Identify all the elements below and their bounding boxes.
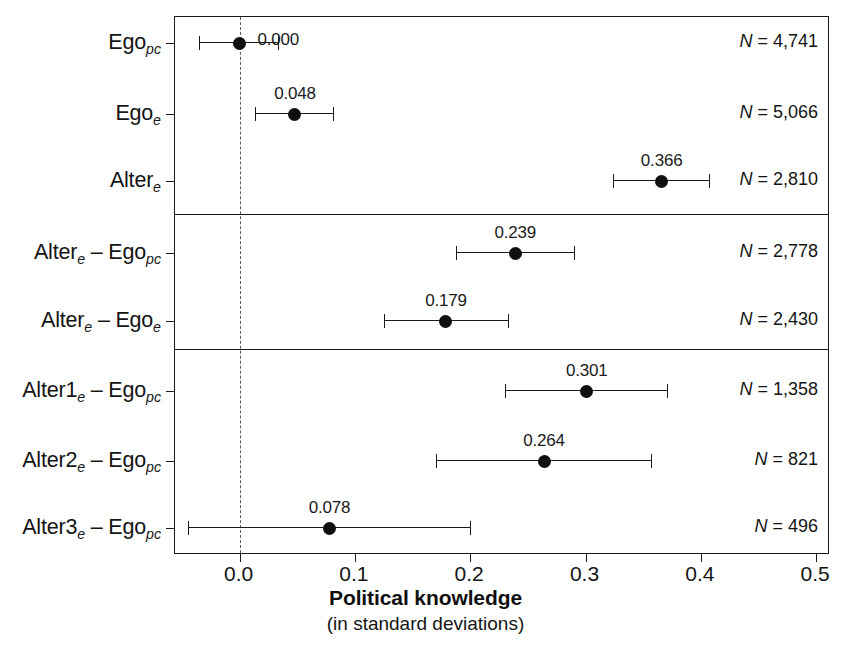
estimate-point [323,522,336,535]
y-axis-tick [166,181,175,182]
y-axis-label-alter1-e-minus-ego-pc: Alter1e – Egopc [22,378,161,403]
estimate-value-label: 0.000 [258,30,300,50]
y-axis-tick [166,321,175,322]
estimate-point [580,385,593,398]
x-axis-title: Political knowledge [0,586,851,610]
confidence-interval-cap-lower [384,314,385,328]
x-axis-tick [586,553,587,562]
confidence-interval-cap-lower [613,174,614,188]
x-axis-tick [816,553,817,562]
sample-size-label: N = 5,066 [739,102,818,123]
sample-size-symbol: N [754,449,767,469]
panel-divider-1 [175,214,828,215]
estimate-value-label: 0.239 [494,223,536,243]
panel-divider-2 [175,349,828,350]
sample-size-label: N = 496 [754,516,818,537]
estimate-value-label: 0.301 [566,361,608,381]
y-axis-tick [166,253,175,254]
y-axis-label-alter-e-minus-ego-e: Altere – Egoe [41,308,161,333]
confidence-interval-cap-lower [436,454,437,468]
estimate-value-label: 0.366 [641,151,683,171]
y-axis-label-alter-e: Altere [110,168,161,193]
sample-size-symbol: N [754,516,767,536]
estimate-point [288,108,301,121]
x-axis-tick-label: 0.2 [455,562,484,586]
sample-size-label: N = 4,741 [739,31,818,52]
y-axis-tick [166,391,175,392]
x-axis-tick [701,553,702,562]
y-axis-label-alter3-e-minus-ego-pc: Alter3e – Egopc [22,515,161,540]
confidence-interval-cap-upper [709,174,710,188]
sample-size-label: N = 1,358 [739,379,818,400]
estimate-point [233,37,246,50]
x-axis-tick [470,553,471,562]
x-axis-subtitle: (in standard deviations) [0,613,851,635]
confidence-interval-cap-upper [574,246,575,260]
sample-size-symbol: N [739,31,752,51]
sample-size-symbol: N [739,241,752,261]
estimate-point [538,455,551,468]
sample-size-symbol: N [739,169,752,189]
confidence-interval-cap-upper [667,384,668,398]
confidence-interval-cap-lower [505,384,506,398]
estimate-value-label: 0.048 [274,84,316,104]
confidence-interval-cap-lower [188,521,189,535]
confidence-interval-cap-upper [333,107,334,121]
forest-plot-figure: 0.000N = 4,7410.048N = 5,0660.366N = 2,8… [0,0,851,655]
y-axis-label-alter2-e-minus-ego-pc: Alter2e – Egopc [22,448,161,473]
y-axis-label-alter-e-minus-ego-pc: Altere – Egopc [34,240,161,265]
sample-size-symbol: N [739,102,752,122]
x-axis-tick-label: 0.3 [570,562,599,586]
sample-size-label: N = 2,430 [739,309,818,330]
y-axis-tick [166,528,175,529]
estimate-point [439,315,452,328]
y-axis-tick [166,43,175,44]
confidence-interval-cap-lower [456,246,457,260]
y-axis-label-ego-pc: Egopc [108,30,161,55]
sample-size-label: N = 821 [754,449,818,470]
x-axis-tick [355,553,356,562]
y-axis-tick [166,461,175,462]
estimate-value-label: 0.078 [309,498,351,518]
x-axis-tick-label: 0.0 [224,562,253,586]
confidence-interval-cap-upper [508,314,509,328]
estimate-point [655,175,668,188]
x-axis-tick-label: 0.4 [685,562,714,586]
sample-size-symbol: N [739,309,752,329]
estimate-point [509,247,522,260]
x-axis-tick [240,553,241,562]
confidence-interval-cap-upper [651,454,652,468]
estimate-value-label: 0.179 [425,291,467,311]
y-axis-tick [166,114,175,115]
confidence-interval-cap-upper [470,521,471,535]
x-axis-tick-label: 0.1 [339,562,368,586]
sample-size-label: N = 2,810 [739,169,818,190]
confidence-interval-cap-lower [199,36,200,50]
confidence-interval-cap-lower [255,107,256,121]
sample-size-symbol: N [739,379,752,399]
y-axis-label-ego-e: Egoe [115,101,161,126]
sample-size-label: N = 2,778 [739,241,818,262]
x-axis-tick-label: 0.5 [801,562,830,586]
estimate-value-label: 0.264 [523,431,565,451]
zero-reference-line [240,17,241,553]
plot-area: 0.000N = 4,7410.048N = 5,0660.366N = 2,8… [174,16,829,554]
